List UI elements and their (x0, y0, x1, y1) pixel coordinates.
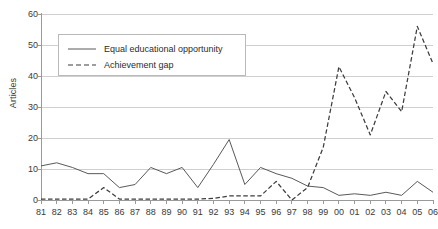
x-axis-tick-label: 99 (318, 207, 328, 217)
x-axis-tick-label: 00 (334, 207, 344, 217)
legend-item-achievement-gap: Achievement gap (67, 58, 174, 72)
x-axis-tick-label: 03 (381, 207, 391, 217)
x-axis-tick-label: 85 (99, 207, 109, 217)
chart-legend: Equal educational opportunity Achievemen… (58, 34, 246, 76)
x-axis-tick-label: 96 (271, 207, 281, 217)
x-axis-tick-label: 91 (193, 207, 203, 217)
x-axis-tick-label: 05 (412, 207, 422, 217)
chart-figure: Articles 0102030405060 81828384858687888… (0, 0, 438, 229)
x-axis-tick-label: 06 (428, 207, 438, 217)
legend-label: Achievement gap (104, 60, 174, 70)
x-axis-tick-label: 02 (365, 207, 375, 217)
x-axis-tick-label: 95 (256, 207, 266, 217)
x-axis-tick-label: 01 (350, 207, 360, 217)
x-axis-tick-label: 87 (130, 207, 140, 217)
legend-item-equal-educational-opportunity: Equal educational opportunity (67, 42, 223, 56)
x-axis-tick-label: 92 (208, 207, 218, 217)
legend-label: Equal educational opportunity (104, 44, 223, 54)
x-axis-tick-label: 94 (240, 207, 250, 217)
x-axis-tick-label: 93 (224, 207, 234, 217)
x-axis-tick-label: 97 (287, 207, 297, 217)
x-axis-tick-label: 88 (146, 207, 156, 217)
legend-solid-line-icon (67, 44, 97, 54)
x-axis-tick-label: 82 (52, 207, 62, 217)
legend-dashed-line-icon (67, 60, 97, 70)
x-axis-tick-label: 04 (397, 207, 407, 217)
x-axis-tick-label: 83 (67, 207, 77, 217)
x-axis-tick-label: 89 (161, 207, 171, 217)
x-axis-tick-label: 90 (177, 207, 187, 217)
x-axis-tick-label: 86 (114, 207, 124, 217)
x-axis-tick-label: 81 (36, 207, 46, 217)
x-axis-tick-label: 98 (303, 207, 313, 217)
x-axis-tick-label: 84 (83, 207, 93, 217)
